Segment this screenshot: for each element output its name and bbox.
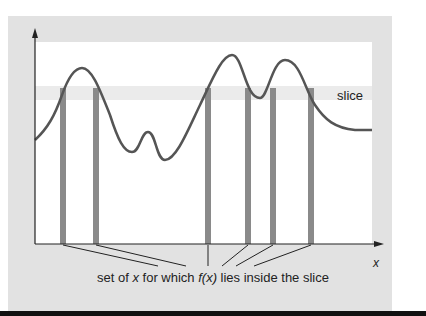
interval-bar — [308, 88, 314, 244]
caption: set of x for which f(x) lies inside the … — [0, 270, 426, 285]
interval-bar — [245, 88, 251, 244]
interval-bar — [205, 88, 211, 244]
caption-func: f(x) — [198, 270, 217, 285]
x-axis-arrow-icon — [374, 241, 384, 247]
bottom-border — [0, 311, 426, 316]
y-axis-arrow-icon — [32, 28, 38, 38]
interval-bar — [93, 88, 99, 244]
slice-diagram — [0, 0, 426, 316]
x-axis-label: x — [373, 256, 379, 270]
slice-label: slice — [337, 88, 363, 103]
interval-bar — [60, 88, 66, 244]
plot-area — [35, 42, 372, 244]
leader-lines — [63, 245, 311, 266]
caption-part1: set of — [97, 270, 132, 285]
caption-part3: lies inside the slice — [217, 270, 329, 285]
caption-part2: for which — [139, 270, 198, 285]
interval-bar — [270, 88, 276, 244]
